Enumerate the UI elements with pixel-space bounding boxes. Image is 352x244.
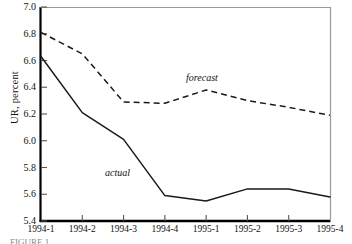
figure-caption: FIGURE 1 [10, 238, 49, 244]
y-tick-label: 6.8 [12, 29, 36, 39]
y-axis-tick-labels: 7.06.86.66.46.26.05.85.65.4 [12, 0, 36, 244]
line-chart-plot [0, 0, 352, 244]
y-tick-label: 6.2 [12, 109, 36, 119]
y-axis-ticks [41, 7, 47, 221]
y-tick-label: 6.6 [12, 56, 36, 66]
series-label-forecast: forecast [186, 73, 218, 83]
x-tick-label: 1995-4 [302, 224, 352, 235]
figure-container: UR, percent 7.06.86.66.46.26.05.85.65.4 … [0, 0, 352, 244]
y-tick-label: 5.6 [12, 189, 36, 199]
y-tick-label: 5.8 [12, 163, 36, 173]
x-axis-tick-labels: 1994-11994-21994-31994-41995-11995-21995… [0, 224, 352, 240]
y-tick-label: 6.4 [12, 82, 36, 92]
y-tick-label: 6.0 [12, 136, 36, 146]
y-tick-label: 7.0 [12, 2, 36, 12]
series-label-actual: actual [105, 168, 130, 178]
